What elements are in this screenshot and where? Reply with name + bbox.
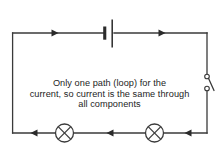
current-arrow-bottom-left <box>31 129 38 136</box>
caption-line-2: current, so current is the same through <box>0 89 219 100</box>
current-arrow-top-right <box>159 29 166 36</box>
caption-block: Only one path (loop) for the current, so… <box>0 78 219 110</box>
circuit-svg <box>0 0 219 153</box>
current-arrow-top-left <box>52 29 59 36</box>
circuit-diagram: Only one path (loop) for the current, so… <box>0 0 219 153</box>
caption-line-1: Only one path (loop) for the <box>0 78 219 89</box>
battery-negative-plate <box>103 27 106 40</box>
lamp-left-symbol <box>56 124 74 142</box>
battery-symbol <box>103 20 112 48</box>
current-arrow-bottom-middle <box>107 129 114 136</box>
current-arrow-bottom-right <box>185 129 192 136</box>
lamp-right-symbol <box>146 124 164 142</box>
caption-line-3: all components <box>0 99 219 110</box>
